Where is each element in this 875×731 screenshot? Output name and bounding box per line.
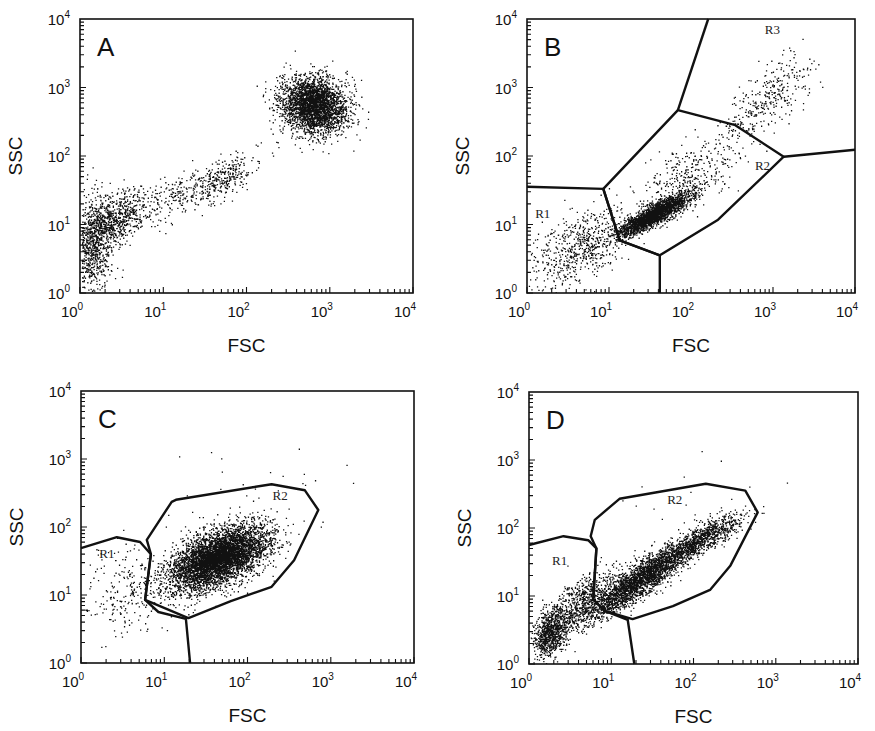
y-axis-label: SSC bbox=[6, 507, 27, 546]
x-tick-label: 104 bbox=[395, 671, 418, 690]
y-tick-label: 103 bbox=[495, 78, 518, 97]
scatter-points bbox=[85, 449, 354, 648]
y-tick-label: 103 bbox=[48, 78, 71, 97]
y-tick-label: 102 bbox=[48, 146, 71, 165]
event-dots bbox=[531, 451, 788, 664]
axis-ticks bbox=[529, 395, 858, 664]
panel-letter: B bbox=[544, 32, 561, 62]
gate-label: R1 bbox=[99, 546, 114, 561]
x-tick-label: 101 bbox=[144, 301, 167, 320]
x-axis-label: FSC bbox=[675, 706, 713, 727]
y-tick-label: 100 bbox=[49, 653, 72, 672]
scatter-panel-a: 100100101101102102103103104104FSCSSCA bbox=[5, 9, 417, 356]
y-axis-label: SSC bbox=[454, 508, 475, 547]
axis-ticks bbox=[80, 22, 413, 293]
y-tick-label: 104 bbox=[48, 9, 71, 28]
y-tick-label: 101 bbox=[497, 586, 520, 605]
flow-cytometry-figure: 100100101101102102103103104104FSCSSCA R1… bbox=[0, 0, 875, 731]
gate-label: R2 bbox=[755, 158, 770, 173]
x-tick-label: 103 bbox=[312, 671, 335, 690]
plot-frame bbox=[529, 392, 858, 664]
x-tick-label: 102 bbox=[227, 301, 250, 320]
y-tick-label: 102 bbox=[497, 518, 520, 537]
panel-letter: A bbox=[97, 32, 115, 62]
panel-letter: C bbox=[98, 404, 117, 434]
axis-ticks bbox=[81, 394, 414, 663]
gate-r3-left-divider bbox=[678, 19, 708, 110]
y-tick-label: 100 bbox=[48, 283, 71, 302]
scatter-panel-b: R1R2R3100100101101102102103103104104FSCS… bbox=[452, 9, 859, 356]
gate-label: R1 bbox=[535, 206, 550, 221]
plot-frame bbox=[81, 391, 414, 663]
plot-frame bbox=[80, 19, 413, 293]
y-tick-label: 102 bbox=[495, 146, 518, 165]
axis-ticks bbox=[527, 22, 855, 293]
y-tick-label: 104 bbox=[495, 9, 518, 28]
event-dots bbox=[82, 51, 370, 295]
x-tick-label: 103 bbox=[757, 672, 780, 691]
x-tick-label: 100 bbox=[510, 672, 533, 691]
x-axis-label: FSC bbox=[672, 335, 710, 356]
plot-frame bbox=[527, 19, 855, 293]
scatter-points bbox=[82, 51, 370, 295]
x-tick-label: 102 bbox=[674, 672, 697, 691]
y-tick-label: 104 bbox=[497, 382, 520, 401]
y-axis-label: SSC bbox=[452, 136, 473, 175]
y-axis-label: SSC bbox=[5, 136, 26, 175]
x-axis-label: FSC bbox=[228, 335, 266, 356]
y-tick-label: 101 bbox=[48, 215, 71, 234]
y-tick-label: 100 bbox=[495, 283, 518, 302]
y-tick-label: 101 bbox=[49, 585, 72, 604]
y-tick-label: 104 bbox=[49, 381, 72, 400]
y-tick-label: 103 bbox=[497, 450, 520, 469]
x-tick-label: 104 bbox=[394, 301, 417, 320]
x-tick-label: 101 bbox=[590, 301, 613, 320]
gate-label: R2 bbox=[272, 488, 287, 503]
panel-letter: D bbox=[546, 405, 565, 435]
event-dots bbox=[85, 449, 354, 648]
gate-label: R3 bbox=[765, 22, 780, 37]
x-axis-label: FSC bbox=[229, 705, 267, 726]
y-tick-label: 100 bbox=[497, 654, 520, 673]
x-tick-label: 103 bbox=[311, 301, 334, 320]
x-tick-label: 101 bbox=[145, 671, 168, 690]
gate-label: R1 bbox=[552, 553, 567, 568]
x-tick-label: 102 bbox=[672, 301, 695, 320]
gate-r3-bottom-divider bbox=[784, 150, 855, 157]
scatter-points bbox=[529, 39, 824, 293]
x-tick-label: 104 bbox=[836, 301, 859, 320]
scatter-panel-c: R1R2100100101101102102103103104104FSCSSC… bbox=[6, 381, 418, 726]
scatter-panel-d: R1R2100100101101102102103103104104FSCSSC… bbox=[454, 382, 862, 727]
y-tick-label: 101 bbox=[495, 215, 518, 234]
event-dots bbox=[529, 39, 824, 293]
x-tick-label: 101 bbox=[592, 672, 615, 691]
scatter-points bbox=[531, 451, 788, 664]
x-tick-label: 104 bbox=[839, 672, 862, 691]
x-tick-label: 100 bbox=[62, 671, 85, 690]
y-tick-label: 102 bbox=[49, 517, 72, 536]
y-tick-label: 103 bbox=[49, 449, 72, 468]
x-tick-label: 103 bbox=[754, 301, 777, 320]
x-tick-label: 100 bbox=[508, 301, 531, 320]
x-tick-label: 100 bbox=[61, 301, 84, 320]
x-tick-label: 102 bbox=[228, 671, 251, 690]
gate-label: R2 bbox=[667, 492, 682, 507]
